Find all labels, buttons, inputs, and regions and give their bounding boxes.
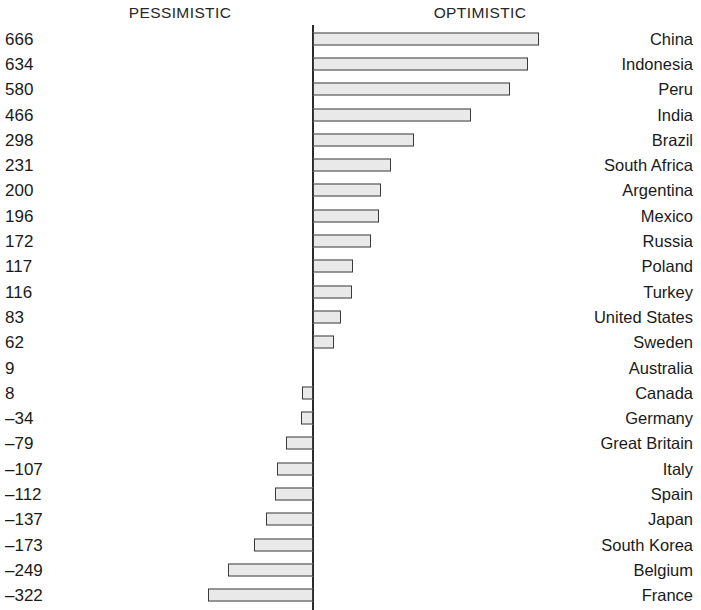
country-label: South Korea: [601, 536, 693, 553]
bar: [228, 563, 313, 576]
value-label: 8: [5, 384, 14, 401]
country-label: United States: [594, 309, 693, 326]
bar-row: 634Indonesia: [0, 51, 701, 76]
bar: [313, 83, 510, 96]
value-label: –322: [5, 587, 43, 604]
bar: [313, 133, 414, 146]
bar-row: 116Turkey: [0, 279, 701, 304]
bar-row: 172Russia: [0, 228, 701, 253]
bar: [286, 437, 313, 450]
country-label: India: [657, 106, 693, 123]
bar-row: 8Canada: [0, 380, 701, 405]
bar: [313, 159, 391, 172]
country-label: France: [642, 587, 693, 604]
value-label: 83: [5, 308, 24, 325]
bar: [313, 57, 528, 70]
bar: [208, 589, 313, 602]
plot-area: 666China634Indonesia580Peru466India298Br…: [0, 25, 701, 610]
value-label: –249: [5, 561, 43, 578]
bar: [313, 32, 539, 45]
bar-row: –173South Korea: [0, 532, 701, 557]
country-label: China: [650, 30, 693, 47]
bar: [275, 488, 313, 501]
bar-row: –34Germany: [0, 406, 701, 431]
bar: [313, 285, 352, 298]
country-label: Australia: [629, 359, 693, 376]
bar: [254, 538, 313, 551]
bar-row: –137Japan: [0, 507, 701, 532]
value-label: –137: [5, 511, 43, 528]
bar-row: 298Brazil: [0, 127, 701, 152]
bar-row: 466India: [0, 102, 701, 127]
country-label: Japan: [648, 511, 693, 528]
country-label: South Africa: [604, 157, 693, 174]
bar: [302, 386, 313, 399]
bar: [313, 235, 371, 248]
value-label: 200: [5, 182, 33, 199]
bar-row: –112Spain: [0, 481, 701, 506]
value-label: 172: [5, 233, 33, 250]
country-label: Great Britain: [600, 435, 693, 452]
bar-row: 231South Africa: [0, 153, 701, 178]
country-label: Sweden: [633, 334, 693, 351]
value-label: –34: [5, 410, 33, 427]
country-label: Spain: [651, 486, 693, 503]
value-label: 580: [5, 81, 33, 98]
bar: [313, 336, 334, 349]
diverging-bar-chart: PESSIMISTIC OPTIMISTIC 666China634Indone…: [0, 0, 701, 610]
country-label: Turkey: [643, 283, 693, 300]
country-label: Poland: [642, 258, 693, 275]
country-label: Indonesia: [621, 56, 693, 73]
bar: [313, 260, 353, 273]
value-label: –79: [5, 435, 33, 452]
value-label: 116: [5, 283, 32, 300]
bar-row: 9Australia: [0, 355, 701, 380]
bar-row: 580Peru: [0, 77, 701, 102]
bar: [313, 310, 341, 323]
bar: [313, 209, 379, 222]
country-label: Russia: [643, 233, 693, 250]
value-label: 9: [5, 359, 14, 376]
value-label: 666: [5, 30, 33, 47]
country-label: Italy: [663, 460, 693, 477]
country-label: Belgium: [633, 562, 693, 579]
country-label: Mexico: [641, 207, 693, 224]
country-label: Canada: [635, 385, 693, 402]
country-label: Germany: [625, 410, 693, 427]
value-label: 634: [5, 55, 33, 72]
bar-row: –249Belgium: [0, 557, 701, 582]
bar-row: –79Great Britain: [0, 431, 701, 456]
bar: [313, 184, 381, 197]
bar-row: 666China: [0, 26, 701, 51]
bar-row: 62Sweden: [0, 330, 701, 355]
value-label: 231: [5, 157, 33, 174]
value-label: 117: [5, 258, 32, 275]
country-label: Brazil: [652, 132, 693, 149]
bar: [277, 462, 313, 475]
country-label: Argentina: [622, 182, 693, 199]
bar-row: –322France: [0, 583, 701, 608]
country-label: Peru: [658, 81, 693, 98]
value-label: –112: [5, 486, 42, 503]
value-label: 62: [5, 334, 24, 351]
value-label: –173: [5, 536, 43, 553]
bar-row: 83United States: [0, 304, 701, 329]
value-label: 298: [5, 131, 33, 148]
bar: [313, 108, 471, 121]
value-label: 196: [5, 207, 33, 224]
optimistic-header-label: OPTIMISTIC: [300, 4, 660, 22]
bar-row: 196Mexico: [0, 203, 701, 228]
bar: [301, 412, 313, 425]
bar-row: 117Poland: [0, 254, 701, 279]
bar-row: 200Argentina: [0, 178, 701, 203]
value-label: 466: [5, 106, 33, 123]
bar: [266, 513, 313, 526]
bar-row: –107Italy: [0, 456, 701, 481]
value-label: –107: [5, 460, 43, 477]
